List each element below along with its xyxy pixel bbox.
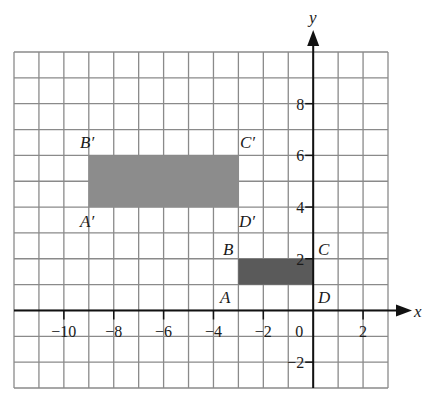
vertex-label-a-prime: A′ [79, 212, 94, 231]
y-tick-label: 4 [296, 199, 304, 216]
vertex-label-c-prime: C′ [240, 133, 255, 152]
x-tick-label: −10 [51, 323, 76, 340]
y-axis-arrow-icon [307, 30, 319, 46]
y-axis-label: y [307, 8, 317, 27]
coordinate-grid-figure: x y −10−8−6−4−2028642−2 B′ C′ A′ D′ B C … [0, 0, 431, 397]
vertex-label-a: A [219, 288, 231, 307]
x-tick-label: 0 [295, 323, 303, 340]
y-tick-label: 6 [296, 147, 304, 164]
y-tick-label: −2 [287, 354, 304, 371]
y-tick-label: 2 [296, 251, 304, 268]
rectangles [89, 155, 313, 284]
x-tick-label: −6 [155, 323, 172, 340]
vertex-label-d-prime: D′ [238, 212, 255, 231]
x-axis-label: x [413, 302, 422, 321]
y-tick-label: 8 [296, 96, 304, 113]
x-tick-label: −4 [205, 323, 222, 340]
vertex-label-d: D [317, 288, 331, 307]
vertex-label-c: C [318, 240, 330, 259]
x-tick-label: −8 [105, 323, 122, 340]
x-tick-label: 2 [359, 323, 367, 340]
rectangle-a-prime-b-prime-c-prime-d-prime [89, 155, 239, 207]
x-tick-label: −2 [255, 323, 272, 340]
vertex-label-b-prime: B′ [80, 133, 94, 152]
x-axis-arrow-icon [396, 304, 412, 316]
vertex-label-b: B [223, 240, 234, 259]
